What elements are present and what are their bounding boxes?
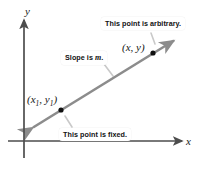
callout-slope-text: Slope is <box>65 53 95 62</box>
callout-arbitrary-point: This point is arbitrary. <box>101 17 185 30</box>
fixed-point-marker <box>58 107 63 112</box>
arbitrary-point-marker <box>150 50 155 55</box>
x-axis-label: x <box>186 136 191 147</box>
y-axis-label: y <box>25 6 30 17</box>
callout-slope-period: . <box>101 53 103 62</box>
callout-slope: Slope is m. <box>61 51 107 65</box>
paren-close: ) <box>53 93 57 105</box>
callout-fixed-point: This point is fixed. <box>59 128 131 141</box>
arbitrary-point-label: (x, y) <box>122 42 145 53</box>
fixed-point-label: (x1, y1) <box>27 94 57 108</box>
line-slope-figure: y x (x, y) (x1, y1) This point is arbitr… <box>0 0 200 170</box>
paren-close: ) <box>141 41 145 53</box>
